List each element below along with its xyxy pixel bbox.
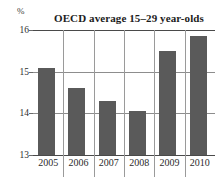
- xtick-label-2007: 2007: [94, 157, 124, 169]
- xtick-label-2008: 2008: [124, 157, 154, 169]
- y-axis-unit-label: %: [17, 7, 25, 16]
- xtick-label-2005: 2005: [33, 157, 63, 169]
- category-separator-4: [154, 30, 155, 177]
- xtick-label-2009: 2009: [154, 157, 184, 169]
- bar-2007[interactable]: [99, 101, 116, 155]
- ytick-dash-16: [29, 30, 33, 31]
- ytick-label-16: 16: [20, 26, 30, 35]
- bar-2009[interactable]: [159, 51, 176, 155]
- ytick-dash-15: [29, 72, 33, 73]
- category-separator-1: [63, 30, 64, 177]
- xtick-label-2010: 2010: [185, 157, 215, 169]
- x-axis-labels: 2005 2006 2007 2008 2009 2010: [33, 157, 215, 173]
- category-separator-3: [124, 30, 125, 177]
- ytick-label-13: 13: [20, 151, 30, 160]
- bar-2008[interactable]: [129, 111, 146, 155]
- bar-2005[interactable]: [38, 68, 55, 156]
- xtick-label-2006: 2006: [63, 157, 93, 169]
- ytick-dash-14: [29, 113, 33, 114]
- bar-2006[interactable]: [68, 88, 85, 155]
- plot-area: 16 15 14 13: [33, 30, 215, 155]
- bar-2010[interactable]: [190, 36, 207, 155]
- chart-title: OECD average 15–29 year-olds: [40, 12, 218, 25]
- ytick-dash-13: [29, 155, 33, 156]
- category-separator-5: [185, 30, 186, 177]
- ytick-label-14: 14: [20, 109, 30, 118]
- category-separator-2: [94, 30, 95, 177]
- chart-screenshot: % OECD average 15–29 year-olds 16 15 14 …: [0, 0, 222, 180]
- ytick-label-15: 15: [20, 68, 30, 77]
